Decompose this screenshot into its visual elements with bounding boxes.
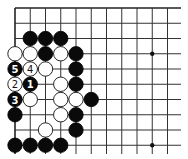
white-stone-icon <box>54 77 68 91</box>
white-stone-icon <box>54 47 68 61</box>
black-stone <box>38 31 52 45</box>
black-stone <box>8 138 22 152</box>
white-stone-icon <box>69 92 83 106</box>
black-stone <box>38 138 52 152</box>
white-stone <box>23 92 37 106</box>
black-stone-icon <box>8 108 22 122</box>
numbered-white-stone: 4 <box>23 62 37 76</box>
numbered-black-stone: 3 <box>8 92 22 106</box>
black-stone <box>8 108 22 122</box>
black-stone-icon <box>54 138 68 152</box>
black-stone-icon <box>69 47 83 61</box>
black-stone-icon <box>23 31 37 45</box>
black-stone-icon <box>69 77 83 91</box>
move-number-label: 2 <box>12 79 18 90</box>
black-stone <box>69 77 83 91</box>
stones-layer: 54213 <box>8 31 99 152</box>
black-stone <box>23 138 37 152</box>
black-stone-icon <box>84 92 98 106</box>
numbered-black-stone: 5 <box>8 62 22 76</box>
star-point-icon <box>150 52 154 56</box>
black-stone-icon <box>38 31 52 45</box>
black-stone-icon <box>38 138 52 152</box>
black-stone-icon <box>54 31 68 45</box>
black-stone <box>54 31 68 45</box>
black-stone <box>69 47 83 61</box>
star-point-icon <box>150 143 154 147</box>
black-stone <box>23 31 37 45</box>
white-stone <box>54 92 68 106</box>
black-stone-icon <box>69 62 83 76</box>
black-stone <box>54 138 68 152</box>
black-stone <box>69 108 83 122</box>
white-stone <box>69 92 83 106</box>
numbered-white-stone: 2 <box>8 77 22 91</box>
move-number-label: 1 <box>27 79 34 90</box>
black-stone <box>38 47 52 61</box>
black-stone-icon <box>69 108 83 122</box>
white-stone-icon <box>8 47 22 61</box>
white-stone <box>23 47 37 61</box>
black-stone-icon <box>69 123 83 137</box>
move-number-label: 4 <box>27 64 33 75</box>
white-stone-icon <box>23 47 37 61</box>
white-stone-icon <box>23 92 37 106</box>
black-stone-icon <box>8 138 22 152</box>
black-stone <box>84 92 98 106</box>
move-number-label: 3 <box>12 95 19 106</box>
move-number-label: 5 <box>12 64 19 75</box>
white-stone-icon <box>54 92 68 106</box>
numbered-black-stone: 1 <box>23 77 37 91</box>
white-stone-icon <box>54 108 68 122</box>
white-stone <box>54 47 68 61</box>
white-stone-icon <box>38 123 52 137</box>
white-stone <box>38 62 52 76</box>
white-stone <box>8 47 22 61</box>
black-stone <box>69 123 83 137</box>
black-stone-icon <box>38 47 52 61</box>
go-board-diagram: 54213 <box>0 0 188 159</box>
black-stone-icon <box>23 138 37 152</box>
white-stone <box>54 77 68 91</box>
white-stone <box>38 123 52 137</box>
black-stone <box>69 62 83 76</box>
white-stone-icon <box>38 62 52 76</box>
white-stone <box>54 108 68 122</box>
